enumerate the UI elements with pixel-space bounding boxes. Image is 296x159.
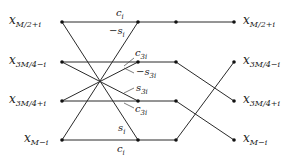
coef-top-c: ci: [116, 8, 124, 21]
leader-s3i-bot: [124, 88, 134, 93]
output-label-4: xM−i: [243, 132, 267, 147]
output-4-base: x: [243, 131, 250, 145]
output-label-3: x3M/4+i: [243, 93, 280, 108]
input-2-base: x: [9, 53, 16, 67]
output-3-sub: 3M/4+i: [250, 99, 280, 108]
input-4-base: x: [24, 131, 31, 145]
input-3-sub: 3M/4+i: [16, 99, 46, 108]
output-4-sub: M−i: [250, 138, 267, 147]
output-1-base: x: [243, 13, 250, 27]
coef-top-s: −si: [109, 26, 125, 39]
coef-r2-s: −s3i: [136, 67, 156, 80]
perm-r4-to-r2: [176, 62, 234, 140]
input-label-2: x3M/4−i: [9, 54, 46, 69]
output-3-base: x: [243, 92, 250, 106]
input-1-sub: M/2+i: [16, 20, 41, 29]
coef-r3-c: c3i: [135, 104, 147, 117]
input-2-sub: 3M/4−i: [16, 60, 46, 69]
input-1-base: x: [9, 13, 16, 27]
coef-bot-s: si: [118, 123, 125, 136]
output-1-sub: M/2+i: [250, 20, 275, 29]
input-4-sub: M−i: [31, 138, 48, 147]
input-3-base: x: [9, 92, 16, 106]
output-label-1: xM/2+i: [243, 14, 275, 29]
coef-r2-c: c3i: [135, 48, 147, 61]
coef-r3-s: s3i: [136, 83, 148, 96]
input-label-3: x3M/4+i: [9, 93, 46, 108]
output-2-base: x: [243, 53, 250, 67]
output-2-sub: 3M/4−i: [250, 60, 280, 69]
input-label-4: xM−i: [24, 132, 48, 147]
leader-c3i-bot: [124, 103, 134, 108]
output-label-2: x3M/4−i: [243, 54, 280, 69]
input-label-1: xM/2+i: [9, 14, 41, 29]
perm-r3-to-r4: [176, 101, 234, 140]
leader-s3i-top: [124, 68, 134, 73]
coef-bot-c: ci: [117, 144, 125, 157]
perm-r2-to-r3: [176, 62, 234, 101]
